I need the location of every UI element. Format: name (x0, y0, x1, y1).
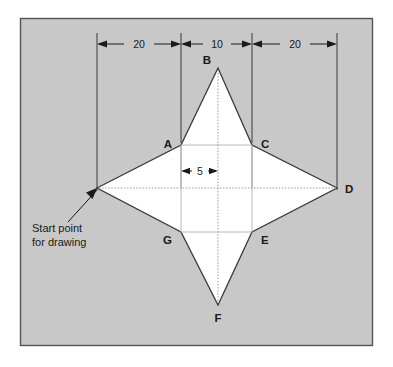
vertex-label-c: C (261, 138, 269, 150)
dimension-left-20-label: 20 (133, 38, 145, 50)
dimension-center-10-label: 10 (211, 38, 223, 50)
dimension-right-20-label: 20 (289, 38, 301, 50)
vertex-label-b: B (203, 54, 211, 66)
dimension-half-5-label: 5 (197, 165, 203, 177)
top-dimension-row: 20 10 20 (97, 37, 337, 51)
vertex-label-d: D (345, 183, 353, 195)
start-point-note-line2: for drawing (32, 236, 86, 248)
vertex-label-a: A (164, 138, 172, 150)
figure-root: 20 10 20 (0, 0, 393, 367)
dimensioned-star-diagram: 20 10 20 (0, 0, 393, 367)
vertex-label-e: E (261, 234, 269, 246)
start-point-note-line1: Start point (32, 222, 82, 234)
vertex-label-f: F (214, 312, 221, 324)
vertex-label-g: G (163, 234, 172, 246)
